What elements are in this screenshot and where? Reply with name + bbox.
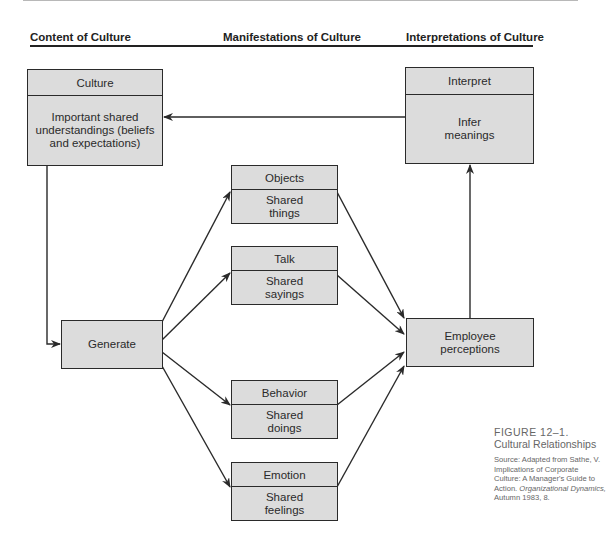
figure-number: FIGURE 12–1.: [494, 426, 606, 438]
behavior-box: Behavior Shared doings: [231, 380, 338, 439]
culture-box-body: Important shared understandings (beliefs…: [28, 96, 162, 165]
behavior-box-body: Shared doings: [232, 405, 337, 438]
arrow-objects-to-employee: [337, 192, 404, 318]
objects-box: Objects Shared things: [231, 165, 338, 224]
interpret-box: Interpret Infer meanings: [405, 67, 534, 164]
culture-box: Culture Important shared understandings …: [27, 69, 163, 166]
employee-perceptions-label: Employee perceptions: [429, 330, 511, 356]
figure-source-journal: Organizational Dynamics,: [519, 484, 606, 493]
arrow-generate-to-talk: [162, 273, 230, 340]
arrow-generate-to-emotion: [162, 366, 230, 487]
emotion-box-body: Shared feelings: [232, 487, 337, 520]
arrow-culture-to-generate: [47, 165, 60, 344]
employee-perceptions-box: Employee perceptions: [406, 318, 534, 367]
interpret-box-body: Infer meanings: [406, 95, 533, 163]
talk-box: Talk Shared sayings: [231, 246, 338, 305]
talk-box-body: Shared sayings: [232, 271, 337, 304]
emotion-box-title: Emotion: [232, 463, 337, 487]
arrow-behavior-to-employee: [337, 352, 404, 405]
culture-box-title: Culture: [28, 70, 162, 96]
objects-box-body: Shared things: [232, 190, 337, 223]
arrow-generate-to-behavior: [162, 352, 230, 405]
figure-source: Source: Adapted from Sathe, V. Implicati…: [494, 455, 606, 503]
emotion-box: Emotion Shared feelings: [231, 462, 338, 521]
arrow-talk-to-employee: [337, 275, 404, 334]
objects-box-title: Objects: [232, 166, 337, 190]
arrow-emotion-to-employee: [337, 366, 404, 487]
arrow-generate-to-objects: [162, 192, 230, 322]
talk-box-title: Talk: [232, 247, 337, 271]
interpret-box-title: Interpret: [406, 68, 533, 95]
figure-caption: FIGURE 12–1. Cultural Relationships Sour…: [494, 426, 606, 503]
figure-title: Cultural Relationships: [494, 438, 606, 450]
figure-source-suffix: Autumn 1983, 8.: [494, 493, 550, 502]
generate-box: Generate: [61, 320, 163, 369]
behavior-box-title: Behavior: [232, 381, 337, 405]
generate-box-label: Generate: [88, 338, 136, 351]
